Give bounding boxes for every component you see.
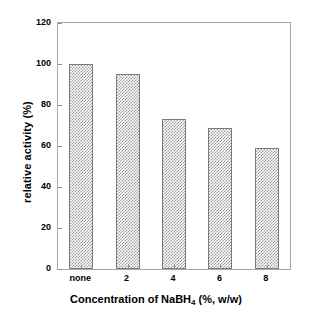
- bar: [116, 74, 140, 269]
- y-axis-tick-label: 120: [17, 17, 51, 27]
- y-axis-tick-labels: 020406080100120: [17, 22, 51, 270]
- x-axis-tick-mark: [220, 265, 221, 269]
- plot-area: [57, 22, 291, 270]
- x-axis-title: Concentration of NaBH4 (%, w/w): [0, 293, 312, 305]
- x-axis-tick-label: 2: [124, 273, 129, 283]
- x-axis-tick-label: 6: [217, 273, 222, 283]
- y-axis-tick-mark: [58, 146, 62, 147]
- bar: [162, 119, 186, 269]
- x-axis-tick-label: 4: [170, 273, 175, 283]
- y-axis-tick-mark: [58, 187, 62, 188]
- y-axis-tick-mark: [58, 269, 62, 270]
- bar: [69, 64, 93, 269]
- x-axis-title-prefix: Concentration of NaBH: [70, 293, 191, 305]
- bar: [208, 128, 232, 269]
- x-axis-tick-mark: [267, 265, 268, 269]
- y-axis-tick-mark: [58, 105, 62, 106]
- y-axis-tick-label: 0: [17, 263, 51, 273]
- bar-chart-figure: relative activity (%) 020406080100120 no…: [0, 0, 312, 317]
- y-axis-tick-mark: [58, 64, 62, 65]
- y-axis-tick-label: 80: [17, 99, 51, 109]
- bar: [255, 148, 279, 269]
- x-axis-title-suffix: (%, w/w): [196, 293, 242, 305]
- x-axis-tick-label: 8: [263, 273, 268, 283]
- y-axis-tick-label: 20: [17, 222, 51, 232]
- y-axis-tick-label: 60: [17, 140, 51, 150]
- y-axis-tick-mark: [58, 228, 62, 229]
- y-axis-tick-label: 40: [17, 181, 51, 191]
- x-axis-tick-label: none: [69, 273, 91, 283]
- x-axis-tick-mark: [128, 265, 129, 269]
- x-axis-tick-labels: none2468: [57, 273, 291, 289]
- x-axis-tick-mark: [81, 265, 82, 269]
- x-axis-title-subscript: 4: [191, 298, 195, 307]
- x-axis-tick-mark: [174, 265, 175, 269]
- y-axis-tick-label: 100: [17, 58, 51, 68]
- y-axis-tick-mark: [58, 23, 62, 24]
